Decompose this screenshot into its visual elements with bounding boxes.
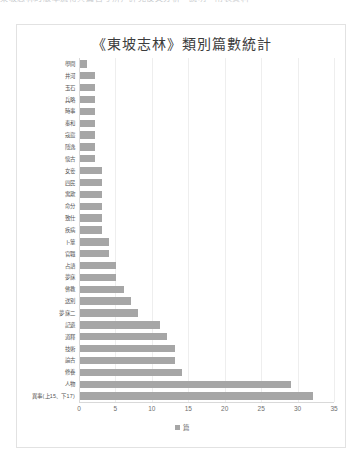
bar-row: 夢寐二: [79, 307, 334, 319]
category-label: 命分: [65, 203, 75, 209]
bar-row: 夢寐: [79, 272, 334, 284]
bar-row: 命分: [79, 200, 334, 212]
bar: [80, 167, 102, 174]
category-label: 夢寐: [65, 274, 75, 280]
category-label: 道釋: [65, 334, 75, 340]
bar-row: 占語: [79, 260, 334, 272]
category-label: 官職: [65, 251, 75, 257]
bar-row: 學問: [79, 58, 334, 70]
category-label: 致仕: [65, 215, 75, 221]
legend-label: 篇: [183, 424, 190, 431]
bar: [80, 84, 95, 91]
x-tick-label: 25: [258, 405, 265, 412]
bar: [80, 345, 175, 352]
category-label: 卜筮: [65, 239, 75, 245]
bar-row: 技術: [79, 343, 334, 355]
category-label: 學問: [65, 61, 75, 67]
category-label: 玉石: [65, 85, 75, 91]
bar: [80, 214, 102, 221]
bar-row: 修養: [79, 366, 334, 378]
bar: [80, 297, 131, 304]
bar: [80, 143, 95, 150]
bar-row: 官職: [79, 248, 334, 260]
x-tick-label: 15: [185, 405, 192, 412]
bar: [80, 131, 95, 138]
bar-row: 寓欺: [79, 188, 334, 200]
x-tick-label: 0: [77, 405, 81, 412]
category-label: 論古: [65, 357, 75, 363]
x-tick-label: 30: [294, 405, 301, 412]
category-label: 疾病: [65, 227, 75, 233]
bar: [80, 286, 124, 293]
category-label: 異事(上15、下17): [32, 393, 75, 399]
category-label: 記遊: [65, 322, 75, 328]
chart-legend: 篇: [17, 424, 347, 431]
bar: [80, 392, 313, 399]
page-top-cutoff-text: 東坡志林的版本流傳與篇目考辨，詳見後文分析 說明 附表資料: [0, 0, 364, 11]
bar-row: 論古: [79, 355, 334, 367]
bar-row: 四民: [79, 177, 334, 189]
bar-row: 卜筮: [79, 236, 334, 248]
x-axis-line: [79, 402, 334, 403]
bar: [80, 250, 109, 257]
bar-row: 送別: [79, 295, 334, 307]
category-label: 寇盜: [65, 132, 75, 138]
category-label: 女妾: [65, 168, 75, 174]
page-top-cutoff-label: 東坡志林的版本流傳與篇目考辨，詳見後文分析 說明 附表資料: [0, 0, 249, 3]
bar-row: 人物: [79, 378, 334, 390]
category-label: 佛教: [65, 286, 75, 292]
category-label: 井河: [65, 73, 75, 79]
bar-row: 疾病: [79, 224, 334, 236]
bar-row: 兵略: [79, 94, 334, 106]
bar: [80, 369, 182, 376]
category-label: 四民: [65, 180, 75, 186]
bar-row: 隱逸: [79, 141, 334, 153]
bar: [80, 191, 102, 198]
bar: [80, 238, 109, 245]
x-tick-label: 20: [221, 405, 228, 412]
bar-row: 記遊: [79, 319, 334, 331]
category-label: 送別: [65, 298, 75, 304]
x-tick-label: 35: [330, 405, 337, 412]
x-tick-label: 10: [148, 405, 155, 412]
chart-title: 《東坡志林》類別篇數統計: [17, 33, 347, 53]
bar-row: 致仕: [79, 212, 334, 224]
x-axis-tick-labels: 05101520253035: [79, 405, 334, 417]
bar: [80, 60, 87, 67]
bar: [80, 179, 102, 186]
category-label: 時事: [65, 108, 75, 114]
gridline: [334, 58, 335, 402]
category-label: 夢寐二: [59, 310, 75, 316]
bar-row: 懷古: [79, 153, 334, 165]
category-label: 兵略: [65, 97, 75, 103]
category-label: 寓欺: [65, 191, 75, 197]
plot-area: 學問井河玉石兵略時事秦和寇盜隱逸懷古女妾四民寓欺命分致仕疾病卜筮官職占語夢寐佛教…: [79, 58, 334, 402]
bar-rows: 學問井河玉石兵略時事秦和寇盜隱逸懷古女妾四民寓欺命分致仕疾病卜筮官職占語夢寐佛教…: [79, 58, 334, 402]
bar-row: 道釋: [79, 331, 334, 343]
bar: [80, 120, 95, 127]
bar-row: 井河: [79, 70, 334, 82]
category-label: 人物: [65, 381, 75, 387]
bar: [80, 309, 138, 316]
bar-row: 佛教: [79, 283, 334, 295]
bar: [80, 274, 116, 281]
bar-row: 寇盜: [79, 129, 334, 141]
legend-swatch-icon: [175, 425, 180, 430]
bar: [80, 226, 102, 233]
bar: [80, 155, 95, 162]
bar: [80, 72, 95, 79]
bar-row: 玉石: [79, 82, 334, 94]
category-label: 技術: [65, 346, 75, 352]
bar-row: 女妾: [79, 165, 334, 177]
bar: [80, 357, 175, 364]
bar-row: 時事: [79, 105, 334, 117]
bar: [80, 321, 160, 328]
chart-card: 《東坡志林》類別篇數統計 學問井河玉石兵略時事秦和寇盜隱逸懷古女妾四民寓欺命分致…: [16, 24, 346, 448]
bar-row: 秦和: [79, 117, 334, 129]
x-tick-label: 5: [114, 405, 118, 412]
bar: [80, 381, 291, 388]
bar: [80, 333, 167, 340]
category-label: 秦和: [65, 120, 75, 126]
category-label: 隱逸: [65, 144, 75, 150]
bar: [80, 262, 116, 269]
